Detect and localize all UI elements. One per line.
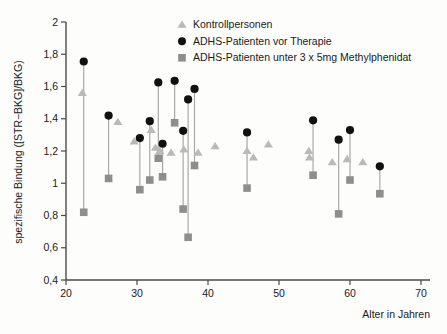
- legend-circle-icon: [178, 37, 186, 45]
- legend-label: ADHS-Patienten unter 3 x 5mg Methylpheni…: [193, 51, 411, 63]
- adhs-vor-therapie-point: [105, 111, 113, 119]
- adhs-medikation-point: [80, 208, 88, 216]
- legend-label: Kontrollpersonen: [193, 18, 273, 30]
- adhs-medikation-point: [346, 176, 354, 184]
- y-axis-title: spezifische Bindung ([STR−BKG]/BKG): [12, 60, 24, 244]
- adhs-medikation-point: [179, 205, 187, 213]
- x-axis-title: Alter in Jahren: [362, 308, 430, 320]
- adhs-medikation-point: [309, 171, 317, 179]
- adhs-vor-therapie-point: [335, 136, 343, 144]
- y-tick-label: 1,2: [43, 145, 58, 157]
- adhs-vor-therapie-point: [179, 127, 187, 135]
- adhs-medikation-point: [146, 176, 154, 184]
- adhs-vor-therapie-point: [243, 128, 251, 136]
- scatter-chart: 0,40,60,811,21,41,61,82 203040506070 Alt…: [0, 0, 447, 334]
- adhs-medikation-point: [171, 119, 179, 127]
- adhs-medikation-point: [376, 190, 384, 198]
- adhs-vor-therapie-point: [171, 77, 179, 85]
- adhs-vor-therapie-point: [158, 140, 166, 148]
- adhs-vor-therapie-point: [136, 134, 144, 142]
- adhs-medikation-point: [155, 154, 163, 162]
- x-tick-label: 50: [273, 287, 285, 299]
- x-tick-label: 40: [202, 287, 214, 299]
- adhs-medikation-point: [105, 175, 113, 183]
- y-tick-label: 1,4: [43, 112, 58, 124]
- x-tick-label: 30: [131, 287, 143, 299]
- adhs-medikation-point: [184, 233, 192, 241]
- adhs-medikation-point: [191, 162, 199, 170]
- legend-label: ADHS-Patienten vor Therapie: [193, 35, 332, 47]
- adhs-medikation-point: [243, 184, 251, 192]
- adhs-vor-therapie-point: [309, 116, 317, 124]
- y-tick-label: 0,8: [43, 209, 58, 221]
- y-tick-label: 1,8: [43, 48, 58, 60]
- y-tick-label: 2: [52, 16, 58, 28]
- x-tick-label: 70: [415, 287, 427, 299]
- x-tick-label: 60: [344, 287, 356, 299]
- adhs-vor-therapie-point: [376, 162, 384, 170]
- adhs-vor-therapie-point: [190, 85, 198, 93]
- adhs-vor-therapie-point: [146, 117, 154, 125]
- adhs-vor-therapie-point: [154, 78, 162, 86]
- y-tick-label-group: 0,40,60,811,21,41,61,82: [43, 16, 58, 286]
- legend-square-icon: [178, 54, 186, 62]
- adhs-medikation-point: [159, 173, 167, 181]
- y-tick-label: 0,6: [43, 241, 58, 253]
- adhs-vor-therapie-point: [184, 95, 192, 103]
- y-tick-label: 1: [52, 177, 58, 189]
- adhs-vor-therapie-point: [80, 57, 88, 65]
- y-tick-label: 1,6: [43, 80, 58, 92]
- adhs-medikation-point: [335, 210, 343, 218]
- adhs-medikation-point: [136, 186, 144, 194]
- y-tick-label: 0,4: [43, 274, 58, 286]
- chart-figure: 0,40,60,811,21,41,61,82 203040506070 Alt…: [0, 0, 447, 334]
- x-tick-label: 20: [60, 287, 72, 299]
- adhs-vor-therapie-point: [346, 126, 354, 134]
